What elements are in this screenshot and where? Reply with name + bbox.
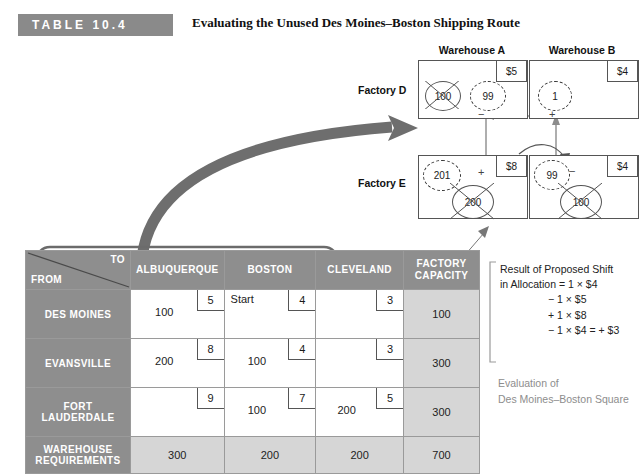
col-header-albuquerque: ALBUQUERQUE [131,251,225,290]
result-line-3: − 1 × $5 [500,292,619,307]
transportation-table: TO FROM ALBUQUERQUE BOSTON CLEVELAND FAC… [25,250,480,474]
cell-des-moines-boston: 4 Start [224,290,316,339]
ship-evansville-boston: 100 [225,355,290,367]
table-row: FORT LAUDERDALE 9 7 100 5 200 300 [26,388,480,437]
grand-total: 700 [404,437,480,474]
diagram-sign-e-b: − [569,165,575,177]
req-header-line2: REQUIREMENTS [26,455,130,466]
requirement-boston: 200 [224,437,316,474]
diagram-sign-e-a: + [478,166,484,178]
strikeout-e-a [450,183,496,221]
cell-evansville-albuquerque: 8 200 [131,339,225,388]
result-line-2: in Allocation = 1 × $4 [500,277,619,292]
factory-d-label: Factory D [358,84,406,96]
requirement-albuquerque: 300 [131,437,225,474]
corner-cell: TO FROM [26,251,131,290]
warehouse-b-title: Warehouse B [528,44,636,56]
table-number-label: TABLE 10.4 [18,18,128,32]
cost-fort-lauderdale-boston: 7 [288,388,315,409]
cell-fort-lauderdale-boston: 7 100 [224,388,316,437]
req-header-line1: WAREHOUSE [26,444,130,455]
diagram-new-alloc-d-a: 99 [470,81,506,111]
requirement-cleveland: 200 [316,437,404,474]
diagram-cost-d-a: $5 [496,60,527,82]
result-line-4: + 1 × $8 [500,308,619,323]
diagram-cost-d-b: $4 [607,60,638,82]
ship-evansville-albuquerque: 200 [131,355,198,367]
ship-fort-lauderdale-boston: 100 [225,404,290,416]
row-header-fort-lauderdale: FORT LAUDERDALE [26,388,131,437]
cell-des-moines-cleveland: 3 [316,290,404,339]
capacity-des-moines: 100 [404,290,480,339]
cost-des-moines-cleveland: 3 [376,290,403,311]
diagram-cost-e-a: $8 [496,155,527,177]
evaluation-note: Evaluation of Des Moines–Boston Square [498,376,629,408]
result-brace [490,262,496,362]
cell-fort-lauderdale-albuquerque: 9 [131,388,225,437]
table-number-badge: TABLE 10.4 [18,14,173,36]
row-header-des-moines: DES MOINES [26,290,131,339]
result-line-1: Result of Proposed Shift [500,262,619,277]
capacity-header-line1: FACTORY [404,258,479,271]
table-caption: Evaluating the Unused Des Moines–Boston … [192,15,520,31]
table-footer-row: WAREHOUSE REQUIREMENTS 300 200 200 700 [26,437,480,474]
capacity-header-line2: CAPACITY [404,270,479,283]
result-line-5: − 1 × $4 = + $3 [500,323,619,338]
cell-evansville-boston: 4 100 [224,339,316,388]
cost-fort-lauderdale-albuquerque: 9 [197,388,224,409]
diagram-sign-d-b: + [549,108,555,120]
table-row: EVANSVILLE 8 200 4 100 3 300 [26,339,480,388]
corner-to-label: TO [111,254,126,267]
result-of-proposed-shift-note: Result of Proposed Shift in Allocation =… [500,262,619,338]
row-header-warehouse-requirements: WAREHOUSE REQUIREMENTS [26,437,131,474]
diagram-sign-d-a: − [478,108,484,120]
cell-evansville-cleveland: 3 [316,339,404,388]
ship-des-moines-albuquerque: 100 [131,306,198,318]
strikeout-e-b [558,183,604,221]
col-header-boston: BOSTON [224,251,316,290]
corner-from-label: FROM [31,274,62,287]
cost-des-moines-boston: 4 [288,290,315,311]
eval-line-1: Evaluation of [498,376,629,392]
cell-des-moines-albuquerque: 5 100 [131,290,225,339]
capacity-evansville: 300 [404,339,480,388]
strikeout-d-a [425,81,459,109]
diagram-cost-e-b: $4 [607,155,638,177]
warehouse-a-title: Warehouse A [418,44,526,56]
table-row: DES MOINES 5 100 4 Start 3 100 [26,290,480,339]
factory-e-label: Factory E [358,177,406,189]
start-label: Start [231,293,254,305]
col-header-factory-capacity: FACTORY CAPACITY [404,251,480,290]
eval-line-2: Des Moines–Boston Square [498,392,629,408]
cost-fort-lauderdale-cleveland: 5 [376,388,403,409]
cost-evansville-cleveland: 3 [376,339,403,360]
row-header-evansville: EVANSVILLE [26,339,131,388]
ship-fort-lauderdale-cleveland: 200 [316,404,377,416]
cost-des-moines-albuquerque: 5 [197,290,224,311]
capacity-fort-lauderdale: 300 [404,388,480,437]
col-header-cleveland: CLEVELAND [316,251,404,290]
table-header-row: TO FROM ALBUQUERQUE BOSTON CLEVELAND FAC… [26,251,480,290]
cost-evansville-albuquerque: 8 [197,339,224,360]
cell-fort-lauderdale-cleveland: 5 200 [316,388,404,437]
diagram-new-alloc-d-b: 1 [538,81,572,111]
cost-evansville-boston: 4 [288,339,315,360]
